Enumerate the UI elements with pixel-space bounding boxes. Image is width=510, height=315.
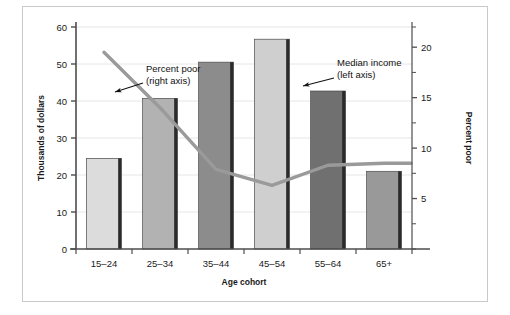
x-category-label: 35–44 — [203, 258, 229, 269]
right-axis: 5101520 — [412, 22, 432, 249]
y-tick-label: 30 — [56, 133, 67, 144]
x-axis-ticks — [76, 249, 412, 254]
y2-tick-label: 15 — [421, 92, 432, 103]
y2-tick-label: 5 — [421, 193, 426, 204]
chart-page: 0102030405060 5101520 15–2425–3435–4445–… — [0, 0, 510, 315]
x-axis-title: Age cohort — [222, 277, 267, 287]
y2-tick-label: 10 — [421, 143, 432, 154]
y-tick-label: 60 — [56, 22, 67, 33]
bar-body — [255, 39, 290, 249]
x-category-label: 55–64 — [315, 258, 341, 269]
bar-shadow-edge — [342, 91, 345, 249]
bar-shadow-edge — [398, 171, 401, 249]
bar — [255, 39, 290, 249]
annotation-label-line2: (left axis) — [337, 69, 376, 80]
y2-axis-title: Percent poor — [464, 112, 474, 165]
bar-body — [87, 158, 122, 249]
bar-shadow-edge — [230, 62, 233, 249]
x-category-label: 65+ — [376, 258, 393, 269]
right-axis-ticks: 5101520 — [412, 27, 432, 249]
x-category-label: 45–54 — [259, 258, 285, 269]
y-tick-label: 10 — [56, 207, 67, 218]
x-axis: 15–2425–3435–4445–5455–6465+ — [70, 249, 430, 269]
annotation-label-line1: Median income — [337, 57, 401, 68]
y-tick-label: 40 — [56, 96, 67, 107]
bar-shadow-edge — [286, 39, 289, 249]
y-tick-label: 50 — [56, 59, 67, 70]
x-category-label: 25–34 — [147, 258, 173, 269]
y-tick-label: 0 — [62, 244, 67, 255]
combo-chart: 0102030405060 5101520 15–2425–3435–4445–… — [0, 0, 510, 315]
y-tick-label: 20 — [56, 170, 67, 181]
bar — [87, 158, 122, 249]
bar — [367, 171, 402, 249]
annotation-label-line2: (right axis) — [146, 75, 190, 86]
left-axis: 0102030405060 — [56, 22, 76, 255]
x-axis-labels: 15–2425–3435–4445–5455–6465+ — [91, 258, 393, 269]
y-axis-title: Thousands of dollars — [36, 95, 46, 181]
y2-tick-label: 20 — [421, 42, 432, 53]
bar-shadow-edge — [118, 158, 121, 249]
left-axis-ticks: 0102030405060 — [56, 22, 76, 255]
x-category-label: 15–24 — [91, 258, 117, 269]
bar-body — [367, 171, 402, 249]
bar-shadow-edge — [174, 98, 177, 249]
annotation-label-line1: Percent poor — [146, 63, 200, 74]
